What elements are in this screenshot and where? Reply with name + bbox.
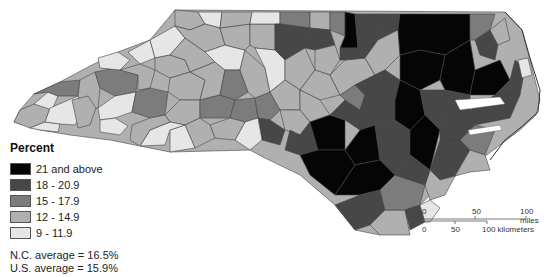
scale-bar-lines: [420, 216, 550, 224]
us-average: U.S. average = 15.9%: [10, 262, 160, 275]
legend-title: Percent: [10, 141, 160, 155]
scale-bar: 0 50 100 miles 0 50 100 kilometers: [420, 207, 550, 237]
nc-average: N.C. average = 16.5%: [10, 249, 160, 262]
legend-item: 9 - 11.9: [10, 225, 160, 241]
legend-item: 12 - 14.9: [10, 209, 160, 225]
legend-item: 18 - 20.9: [10, 177, 160, 193]
averages: N.C. average = 16.5% U.S. average = 15.9…: [10, 249, 160, 275]
legend-label: 15 - 17.9: [36, 195, 79, 207]
legend-swatch: [10, 211, 31, 223]
legend-swatch: [10, 179, 31, 191]
scale-km-0: 0: [422, 225, 426, 234]
legend-label: 12 - 14.9: [36, 211, 79, 223]
legend-swatch: [10, 163, 31, 175]
scale-km-50: 50: [451, 225, 460, 234]
legend-label: 18 - 20.9: [36, 179, 79, 191]
legend-item: 15 - 17.9: [10, 193, 160, 209]
legend-swatch: [10, 227, 31, 239]
legend-swatch: [10, 195, 31, 207]
legend-item: 21 and above: [10, 161, 160, 177]
scale-miles-50: 50: [472, 207, 481, 216]
legend: Percent 21 and above 18 - 20.9 15 - 17.9…: [10, 141, 160, 275]
legend-label: 21 and above: [36, 163, 103, 175]
legend-label: 9 - 11.9: [36, 227, 73, 239]
scale-miles-0: 0: [422, 207, 426, 216]
scale-km-100: 100 kilometers: [482, 225, 534, 234]
